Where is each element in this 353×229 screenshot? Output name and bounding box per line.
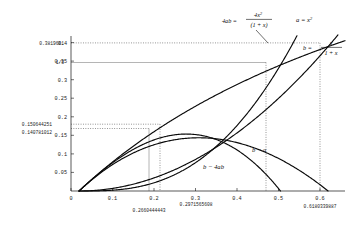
x-special-label-0.2660444443: 0.2660444443 bbox=[132, 208, 165, 213]
function-plot: 0.05 0.1 0.15 0.2 0.25 0.3 0.35 0.4 0.38… bbox=[0, 0, 353, 229]
x-special-label-0.6180339887: 0.6180339887 bbox=[303, 204, 336, 209]
x-tick-label-0.2: 0.2 bbox=[149, 196, 158, 202]
label-4ab-numerator: 4x2 bbox=[254, 11, 262, 19]
label-4ab-group: 4ab = 4x2 (1 + x) bbox=[222, 11, 272, 44]
label-4ab-lhs: 4ab = bbox=[222, 17, 237, 24]
y-special-label-one-third: 1/3 bbox=[56, 60, 65, 65]
label-b-minus-a: b − a bbox=[252, 146, 267, 153]
x-tick-label-0: 0 bbox=[69, 196, 72, 202]
y-tick-label-0.2: 0.2 bbox=[58, 115, 67, 121]
x-tick-label-0.1: 0.1 bbox=[108, 196, 117, 202]
y-special-label-0.140781012: 0.140781012 bbox=[22, 130, 53, 135]
chart-page: 0.05 0.1 0.15 0.2 0.25 0.3 0.35 0.4 0.38… bbox=[0, 0, 353, 229]
label-a: a = x2 bbox=[296, 16, 313, 24]
x-tick-label-0.4: 0.4 bbox=[232, 196, 241, 202]
x-tick-label-0.3: 0.3 bbox=[191, 196, 200, 202]
curve-b-minus-4ab bbox=[79, 134, 280, 191]
x-tick-label-0.5: 0.5 bbox=[274, 196, 283, 202]
y-special-label-0.3819661: 0.3819661 bbox=[39, 41, 64, 46]
x-tick-label-0.6: 0.6 bbox=[315, 196, 324, 202]
y-tick-label-0.05: 0.05 bbox=[55, 170, 67, 176]
y-tick-label-0.15: 0.15 bbox=[55, 133, 67, 139]
y-tick-label-0.3: 0.3 bbox=[58, 78, 67, 84]
y-tick-label-0.25: 0.25 bbox=[55, 96, 67, 102]
curve-4ab bbox=[79, 36, 297, 191]
label-b-minus-4ab: b − 4ab bbox=[203, 163, 225, 170]
y-special-label-0.150644251: 0.150644251 bbox=[22, 122, 53, 127]
label-4ab-leader bbox=[256, 30, 268, 43]
x-special-label-0.2971565608: 0.2971565608 bbox=[179, 202, 212, 207]
y-tick-marks bbox=[71, 43, 74, 173]
label-b-lhs: b = bbox=[303, 44, 312, 51]
label-4ab-denominator: (1 + x) bbox=[250, 21, 267, 29]
label-b-numerator: x bbox=[329, 39, 333, 46]
y-tick-label-0.1: 0.1 bbox=[58, 152, 67, 158]
label-b-denominator: 1 + x bbox=[324, 49, 337, 56]
